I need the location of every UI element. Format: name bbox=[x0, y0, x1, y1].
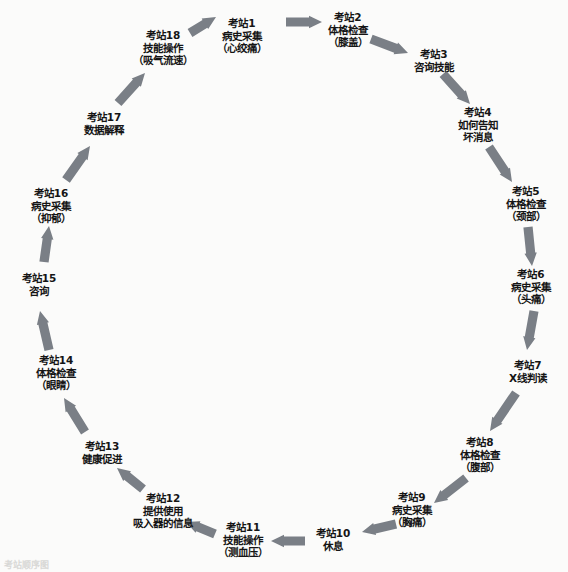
station-node-15[interactable]: 考站15咨询 bbox=[22, 272, 57, 297]
station-node-7[interactable]: 考站7X线判读 bbox=[509, 359, 547, 384]
station-node-12[interactable]: 考站12提供使用吸入器的信息 bbox=[133, 492, 193, 530]
station-1-line-3: （心绞痛） bbox=[217, 42, 267, 55]
station-3-line-2: 咨询技能 bbox=[414, 61, 454, 74]
flow-arrow-10-to-11 bbox=[271, 535, 305, 547]
station-4-line-2: 如何告知 bbox=[458, 119, 498, 132]
station-8-line-2: 体格检查 bbox=[460, 449, 500, 462]
station-node-9[interactable]: 考站9病史采集（胸痛） bbox=[392, 491, 432, 529]
station-node-8[interactable]: 考站8体格检查（腹部） bbox=[460, 436, 500, 474]
station-11-line-3: （测血压） bbox=[218, 546, 268, 559]
station-node-18[interactable]: 考站18技能操作（吸气流速） bbox=[133, 29, 193, 67]
station-6-line-1: 考站6 bbox=[511, 268, 551, 281]
station-node-11[interactable]: 考站11技能操作（测血压） bbox=[218, 521, 268, 559]
station-14-line-3: （眼睛） bbox=[36, 379, 76, 392]
station-7-line-2: X线判读 bbox=[509, 372, 547, 385]
station-11-line-1: 考站11 bbox=[218, 521, 268, 534]
station-15-line-2: 咨询 bbox=[22, 285, 57, 298]
station-7-line-1: 考站7 bbox=[509, 359, 547, 372]
station-9-line-2: 病史采集 bbox=[392, 504, 432, 517]
station-3-line-1: 考站3 bbox=[414, 48, 454, 61]
station-9-line-1: 考站9 bbox=[392, 491, 432, 504]
station-18-line-2: 技能操作 bbox=[133, 42, 193, 55]
flow-arrow-2-to-3 bbox=[369, 35, 408, 55]
station-node-14[interactable]: 考站14体格检查（眼睛） bbox=[36, 354, 76, 392]
station-2-line-1: 考站2 bbox=[328, 11, 368, 24]
station-node-6[interactable]: 考站6病史采集（头痛） bbox=[511, 268, 551, 306]
flow-arrow-4-to-5 bbox=[485, 145, 512, 183]
station-9-line-3: （胸痛） bbox=[392, 516, 432, 529]
station-14-line-2: 体格检查 bbox=[36, 367, 76, 380]
station-16-line-3: （抑郁） bbox=[31, 212, 71, 225]
station-12-line-3: 吸入器的信息 bbox=[133, 517, 193, 530]
station-8-line-3: （腹部） bbox=[460, 461, 500, 474]
diagram-canvas: 考站1病史采集（心绞痛）考站2体格检查（膝盖）考站3咨询技能考站4如何告知坏消息… bbox=[0, 0, 568, 572]
station-15-line-1: 考站15 bbox=[22, 272, 57, 285]
arrow-layer bbox=[0, 0, 568, 572]
station-node-5[interactable]: 考站5体格检查（颈部） bbox=[506, 185, 546, 223]
station-12-line-2: 提供使用 bbox=[133, 505, 193, 518]
station-node-13[interactable]: 考站13健康促进 bbox=[82, 440, 122, 465]
station-2-line-2: 体格检查 bbox=[328, 24, 368, 37]
station-10-line-2: 休息 bbox=[316, 540, 351, 553]
station-node-10[interactable]: 考站10休息 bbox=[316, 527, 351, 552]
station-11-line-2: 技能操作 bbox=[218, 534, 268, 547]
station-2-line-3: （膝盖） bbox=[328, 36, 368, 49]
flow-arrow-6-to-7 bbox=[523, 310, 538, 350]
station-10-line-1: 考站10 bbox=[316, 527, 351, 540]
station-node-17[interactable]: 考站17数据解释 bbox=[84, 111, 124, 136]
flow-arrow-14-to-15 bbox=[37, 311, 54, 351]
flow-arrow-8-to-9 bbox=[434, 474, 469, 503]
station-node-4[interactable]: 考站4如何告知坏消息 bbox=[458, 106, 498, 144]
station-5-line-3: （颈部） bbox=[506, 210, 546, 223]
station-1-line-1: 考站1 bbox=[217, 17, 267, 30]
station-1-line-2: 病史采集 bbox=[217, 30, 267, 43]
footnote-text: 考站顺序图 bbox=[4, 558, 49, 571]
flow-arrow-13-to-14 bbox=[64, 398, 89, 434]
flow-arrow-17-to-18 bbox=[115, 73, 145, 106]
station-5-line-2: 体格检查 bbox=[506, 198, 546, 211]
station-4-line-1: 考站4 bbox=[458, 106, 498, 119]
flow-arrow-7-to-8 bbox=[490, 390, 520, 431]
station-8-line-1: 考站8 bbox=[460, 436, 500, 449]
flow-arrow-15-to-16 bbox=[39, 226, 53, 263]
station-13-line-1: 考站13 bbox=[82, 440, 122, 453]
station-16-line-1: 考站16 bbox=[31, 187, 71, 200]
flow-arrow-16-to-17 bbox=[62, 146, 90, 183]
flow-arrow-12-to-13 bbox=[117, 468, 146, 493]
station-6-line-3: （头痛） bbox=[511, 293, 551, 306]
station-12-line-1: 考站12 bbox=[133, 492, 193, 505]
station-14-line-1: 考站14 bbox=[36, 354, 76, 367]
station-17-line-2: 数据解释 bbox=[84, 124, 124, 137]
station-node-2[interactable]: 考站2体格检查（膝盖） bbox=[328, 11, 368, 49]
flow-arrow-1-to-2 bbox=[286, 16, 322, 28]
station-node-1[interactable]: 考站1病史采集（心绞痛） bbox=[217, 17, 267, 55]
flow-arrow-5-to-6 bbox=[523, 227, 536, 267]
station-18-line-1: 考站18 bbox=[133, 29, 193, 42]
flow-arrow-3-to-4 bbox=[440, 71, 470, 104]
station-13-line-2: 健康促进 bbox=[82, 453, 122, 466]
station-4-line-3: 坏消息 bbox=[458, 131, 498, 144]
station-node-16[interactable]: 考站16病史采集（抑郁） bbox=[31, 187, 71, 225]
station-node-3[interactable]: 考站3咨询技能 bbox=[414, 48, 454, 73]
station-6-line-2: 病史采集 bbox=[511, 281, 551, 294]
station-5-line-1: 考站5 bbox=[506, 185, 546, 198]
station-16-line-2: 病史采集 bbox=[31, 200, 71, 213]
station-18-line-3: （吸气流速） bbox=[133, 54, 193, 67]
station-17-line-1: 考站17 bbox=[84, 111, 124, 124]
